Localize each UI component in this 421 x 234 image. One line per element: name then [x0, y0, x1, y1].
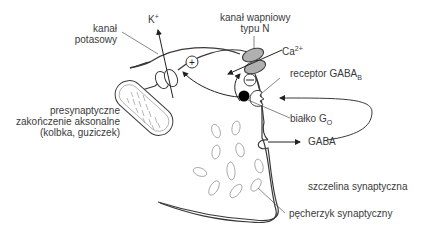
minus-symbol: [244, 74, 256, 86]
calcium-ion-label: Ca2+: [282, 46, 303, 57]
potassium-ion-symbol: K: [148, 14, 155, 25]
g-protein: [239, 91, 250, 102]
presynaptic-terminal-label-line2: zakończenie aksonalne: [10, 116, 120, 127]
gaba-b-receptor-label: receptor GABAB: [290, 68, 362, 79]
gaba-b-receptor-subscript: B: [357, 74, 362, 81]
potassium-ion-label: K+: [148, 14, 159, 25]
potassium-channel-label-line1: kanał: [60, 23, 117, 34]
synaptic-vesicle-label: pęcherzyk synaptyczny: [289, 208, 392, 219]
gaba-label: GABA: [308, 136, 336, 147]
plus-symbol: +: [186, 56, 198, 68]
g-protein-text: białko G: [290, 113, 327, 124]
potassium-channel-label: kanał potasowy: [60, 23, 117, 45]
calcium-channel-label: kanał wapniowy typu N: [220, 12, 290, 34]
membrane-left-stub: [130, 62, 150, 68]
gaba-b-receptor-text: receptor GABA: [290, 68, 357, 79]
calcium-ion-symbol: Ca: [282, 46, 295, 57]
g-protein-label: białko GO: [290, 113, 332, 124]
synaptic-vesicles: [192, 120, 265, 199]
gaba-b-receptor-leader: [262, 78, 280, 93]
potassium-ion-charge: +: [155, 13, 159, 20]
synaptic-cleft-label: szczelina synaptyczna: [308, 181, 408, 192]
presynaptic-terminal-label: presynaptyczne zakończenie aksonalne (ko…: [10, 105, 120, 138]
potassium-channel-leader: [122, 32, 158, 54]
calcium-channel: [241, 46, 268, 77]
calcium-channel-label-line1: kanał wapniowy: [220, 12, 290, 23]
g-protein-leader: [248, 100, 290, 118]
calcium-ion-charge: 2+: [295, 45, 303, 52]
g-protein-subscript: O: [327, 119, 332, 126]
svg-text:+: +: [189, 57, 195, 68]
presynaptic-terminal-label-line1: presynaptyczne: [10, 105, 120, 116]
synaptic-vesicle-leader: [258, 188, 285, 213]
calcium-channel-label-line2: typu N: [220, 23, 290, 34]
potassium-channel-label-line2: potasowy: [60, 34, 117, 45]
presynaptic-terminal-label-line3: (kolbka, guziczek): [10, 127, 120, 138]
